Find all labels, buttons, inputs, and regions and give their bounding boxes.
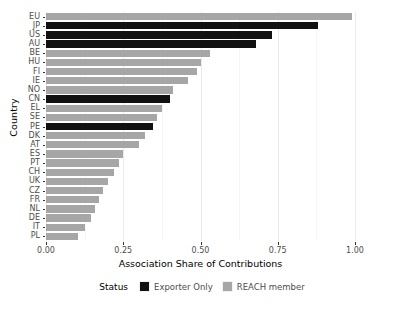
y-tick-mark <box>43 227 45 228</box>
x-tick-label-0.75: 0.75 <box>258 246 298 255</box>
y-tick-mark <box>43 145 45 146</box>
bar-hu[interactable] <box>46 59 201 66</box>
bar-row <box>46 196 355 203</box>
y-tick-mark <box>43 136 45 137</box>
y-tick-mark <box>43 236 45 237</box>
bar-el[interactable] <box>46 105 162 112</box>
bar-no[interactable] <box>46 86 173 93</box>
y-tick-label-ch: CH <box>0 167 40 176</box>
y-tick-label-pl: PL <box>0 231 40 240</box>
x-tick-label-1.00: 1.00 <box>335 246 375 255</box>
y-tick-mark <box>43 191 45 192</box>
bar-dk[interactable] <box>46 132 145 139</box>
bar-uk[interactable] <box>46 178 108 185</box>
bar-cn[interactable] <box>46 95 170 102</box>
bar-row <box>46 214 355 221</box>
y-tick-mark <box>43 200 45 201</box>
x-tick-mark <box>355 242 356 245</box>
y-tick-mark <box>43 72 45 73</box>
bar-row <box>46 95 355 102</box>
y-tick-label-el: EL <box>0 103 40 112</box>
y-tick-label-pt: PT <box>0 158 40 167</box>
y-tick-mark <box>43 108 45 109</box>
gridline-major <box>355 12 356 241</box>
y-tick-label-cz: CZ <box>0 186 40 195</box>
legend-item-exporter-only[interactable]: Exporter Only <box>139 281 213 292</box>
bar-row <box>46 123 355 130</box>
bar-row <box>46 77 355 84</box>
y-tick-label-au: AU <box>0 39 40 48</box>
y-tick-label-us: US <box>0 30 40 39</box>
legend: Status Exporter Only REACH member <box>0 281 404 292</box>
y-tick-label-at: AT <box>0 140 40 149</box>
bar-row <box>46 178 355 185</box>
bar-pt[interactable] <box>46 159 119 166</box>
y-tick-mark <box>43 35 45 36</box>
y-tick-label-it: IT <box>0 222 40 231</box>
y-tick-mark <box>43 117 45 118</box>
bar-be[interactable] <box>46 50 210 57</box>
bar-at[interactable] <box>46 141 139 148</box>
y-tick-label-es: ES <box>0 149 40 158</box>
bar-eu[interactable] <box>46 13 352 20</box>
y-tick-label-eu: EU <box>0 12 40 21</box>
bar-pl[interactable] <box>46 233 78 240</box>
y-tick-label-cn: CN <box>0 94 40 103</box>
y-tick-mark <box>43 172 45 173</box>
x-tick-label-0.00: 0.00 <box>26 246 66 255</box>
bar-jp[interactable] <box>46 22 318 29</box>
bar-row <box>46 40 355 47</box>
bar-pe[interactable] <box>46 123 153 130</box>
bar-es[interactable] <box>46 150 123 157</box>
y-tick-mark <box>43 181 45 182</box>
plot-area <box>46 12 355 241</box>
bar-us[interactable] <box>46 31 272 38</box>
y-tick-label-nl: NL <box>0 204 40 213</box>
bar-cz[interactable] <box>46 187 103 194</box>
bar-row <box>46 132 355 139</box>
x-tick-label-0.50: 0.50 <box>181 246 221 255</box>
bar-ch[interactable] <box>46 169 114 176</box>
x-axis-title: Association Share of Contributions <box>46 258 355 269</box>
y-tick-mark <box>43 127 45 128</box>
y-tick-label-uk: UK <box>0 176 40 185</box>
y-tick-mark <box>43 44 45 45</box>
y-tick-mark <box>43 26 45 27</box>
bar-se[interactable] <box>46 114 157 121</box>
bar-row <box>46 59 355 66</box>
y-tick-label-jp: JP <box>0 21 40 30</box>
bar-row <box>46 86 355 93</box>
y-tick-mark <box>43 53 45 54</box>
bar-row <box>46 105 355 112</box>
y-tick-label-fr: FR <box>0 195 40 204</box>
y-tick-label-se: SE <box>0 112 40 121</box>
legend-label-reach-member: REACH member <box>237 282 305 292</box>
bar-fr[interactable] <box>46 196 99 203</box>
bar-nl[interactable] <box>46 205 95 212</box>
y-tick-label-dk: DK <box>0 131 40 140</box>
bar-row <box>46 233 355 240</box>
y-tick-mark <box>43 90 45 91</box>
y-tick-mark <box>43 163 45 164</box>
bar-row <box>46 150 355 157</box>
y-tick-mark <box>43 17 45 18</box>
bar-row <box>46 205 355 212</box>
y-tick-mark <box>43 81 45 82</box>
bar-de[interactable] <box>46 214 91 221</box>
y-tick-mark <box>43 99 45 100</box>
bar-fi[interactable] <box>46 68 197 75</box>
bar-au[interactable] <box>46 40 256 47</box>
legend-item-reach-member[interactable]: REACH member <box>222 281 305 292</box>
bar-row <box>46 22 355 29</box>
bar-row <box>46 50 355 57</box>
bar-chart: Country EUJPUSAUBEHUFIIENOCNELSEPEDKATES… <box>0 0 404 310</box>
bar-row <box>46 114 355 121</box>
bar-it[interactable] <box>46 224 85 231</box>
legend-label-exporter-only: Exporter Only <box>154 282 213 292</box>
bar-row <box>46 68 355 75</box>
bar-ie[interactable] <box>46 77 188 84</box>
x-tick-mark <box>278 242 279 245</box>
y-tick-label-no: NO <box>0 85 40 94</box>
bar-row <box>46 187 355 194</box>
x-tick-label-0.25: 0.25 <box>103 246 143 255</box>
